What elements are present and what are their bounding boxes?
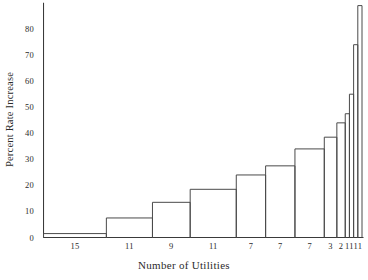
x-tick-label: 7 <box>241 241 261 251</box>
chart-figure: Percent Rate Increase 01020304050607080 … <box>0 0 368 280</box>
x-tick-label: 11 <box>119 241 139 251</box>
axes-group <box>43 3 364 238</box>
x-tick-label: 1 <box>350 241 368 251</box>
x-axis-title: Number of Utilities <box>0 259 368 271</box>
bar <box>358 6 362 238</box>
bar <box>349 94 353 237</box>
bars-group <box>44 6 363 238</box>
x-tick-label: 9 <box>161 241 181 251</box>
y-tick-label: 30 <box>14 154 34 164</box>
y-tick-label: 0 <box>14 233 34 243</box>
bar <box>345 114 349 238</box>
x-tick-label: 7 <box>270 241 290 251</box>
y-tick-label: 60 <box>14 76 34 86</box>
bar <box>266 166 295 238</box>
bar <box>354 45 358 238</box>
bar <box>190 189 236 237</box>
y-tick-label: 80 <box>14 24 34 34</box>
bar <box>236 175 265 238</box>
x-tick-label: 11 <box>203 241 223 251</box>
y-tick-label: 40 <box>14 128 34 138</box>
x-tick-label: 7 <box>300 241 320 251</box>
x-axis-title-text: Number of Utilities <box>138 259 230 271</box>
x-tick-label: 15 <box>65 241 85 251</box>
bar <box>106 218 152 238</box>
y-tick-label: 50 <box>14 102 34 112</box>
bar <box>337 123 345 238</box>
y-tick-label: 20 <box>14 180 34 190</box>
chart-svg <box>43 2 364 238</box>
bar <box>324 137 337 237</box>
y-tick-label: 70 <box>14 50 34 60</box>
bar <box>295 149 324 238</box>
plot-area <box>43 2 364 238</box>
y-axis-title: Percent Rate Increase <box>2 0 18 238</box>
y-tick-label: 10 <box>14 206 34 216</box>
bar <box>152 202 190 237</box>
bar <box>44 234 107 238</box>
